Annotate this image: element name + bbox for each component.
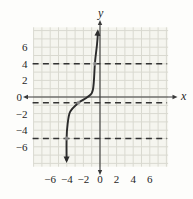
x-tick-label: −4 (61, 174, 73, 185)
y-tick-label: −4 (16, 125, 28, 136)
y-tick-label: −2 (16, 108, 28, 119)
x-tick-label: 6 (147, 174, 153, 185)
intersection-dot (93, 62, 97, 66)
y-axis-label: y (98, 7, 103, 19)
y-tick-label: −6 (16, 141, 28, 152)
x-axis-label: x (181, 90, 186, 102)
y-tick-label: 0 (17, 92, 23, 103)
x-tick-label: 0 (97, 174, 103, 185)
y-tick-label: 4 (22, 58, 28, 69)
x-tick-label: −2 (78, 174, 90, 185)
x-tick-label: 4 (130, 174, 136, 185)
x-tick-label: −6 (44, 174, 56, 185)
y-tick-label: 6 (22, 42, 28, 53)
y-tick-label: 2 (22, 75, 28, 86)
intersection-dot (76, 101, 80, 105)
textbook-graph-figure: 6420−2−4−6 −6−4−20246 x y (0, 0, 193, 199)
x-tick-label: 2 (114, 174, 120, 185)
plot-canvas (0, 0, 193, 199)
intersection-dot (65, 137, 69, 141)
